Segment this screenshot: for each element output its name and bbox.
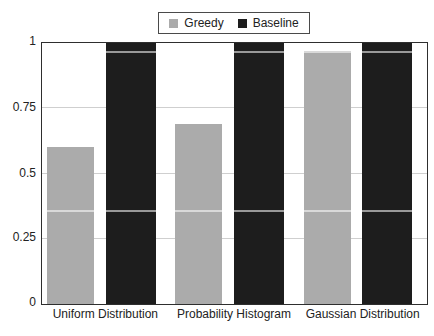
greedy-swatch-icon	[169, 19, 178, 28]
bar-group-2	[299, 43, 427, 304]
bar-greedy-0	[47, 147, 94, 304]
x-label-uniform-distribution: Uniform Distribution	[41, 307, 170, 321]
x-label-gaussian-distribution: Gaussian Distribution	[298, 307, 427, 321]
legend-label-baseline: Baseline	[253, 17, 299, 29]
legend-label-greedy: Greedy	[184, 17, 223, 29]
y-tick-0: 0	[0, 296, 36, 309]
bar-greedy-2	[304, 51, 351, 304]
baseline-swatch-icon	[238, 19, 247, 28]
legend-item-baseline: Baseline	[238, 17, 299, 29]
bar-greedy-1	[175, 124, 222, 304]
x-axis-labels: Uniform Distribution Probability Histogr…	[41, 307, 427, 321]
y-tick-0-5: 0.5	[0, 167, 36, 180]
bar-group-1	[170, 43, 298, 304]
bar-groups	[42, 43, 427, 304]
bar-group-0	[42, 43, 170, 304]
x-label-probability-histogram: Probability Histogram	[170, 307, 299, 321]
y-tick-1: 1	[0, 35, 36, 48]
legend-item-greedy: Greedy	[169, 17, 223, 29]
overlay-line-0.352	[42, 210, 427, 212]
overlay-line-0.96	[42, 51, 427, 53]
legend: Greedy Baseline	[41, 12, 427, 34]
bar-baseline-1	[234, 43, 284, 304]
legend-box: Greedy Baseline	[158, 12, 309, 34]
y-tick-0-75: 0.75	[0, 101, 36, 114]
bar-baseline-0	[106, 43, 156, 304]
bar-baseline-2	[362, 43, 412, 304]
y-tick-0-25: 0.25	[0, 231, 36, 244]
plot-area	[41, 42, 428, 305]
